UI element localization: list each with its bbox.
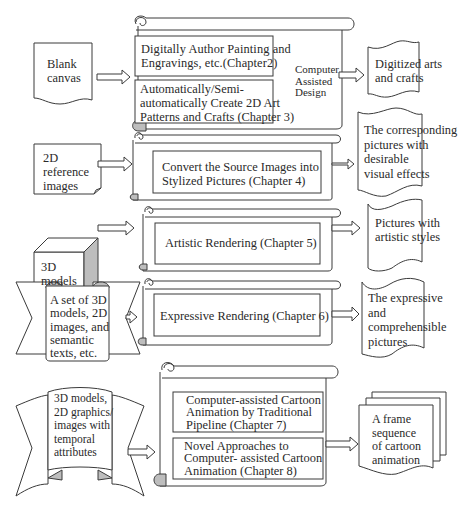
arrow-icon	[332, 221, 360, 235]
input-label: A set of 3D models, 2D images, and seman…	[50, 294, 109, 360]
arrow-icon	[97, 70, 130, 84]
input-label: Blank canvas	[47, 57, 81, 85]
arrow-icon	[98, 221, 134, 235]
process-label: Convert the Source Images into Stylized …	[162, 160, 319, 188]
arrow-icon	[326, 437, 358, 451]
output-label: Pictures with artistic styles	[375, 216, 440, 244]
process-label: Computer-assisted Cartoon Animation by T…	[186, 394, 321, 431]
process-label: Expressive Rendering (Chapter 6)	[160, 309, 329, 323]
output-label: The corresponding pictures with desirabl…	[364, 123, 457, 181]
arrow-icon	[332, 307, 359, 321]
input-label: 3D models, 2D graphics/ images with temp…	[54, 392, 113, 460]
arrow-icon	[332, 159, 354, 169]
process-label: Novel Approaches to Computer- assisted C…	[184, 440, 322, 477]
scroll-side-label: Computer Assisted Design	[295, 64, 339, 99]
arrow-icon	[339, 68, 364, 82]
output-label: The expressive and comprehensible pictur…	[368, 291, 446, 349]
arrow-icon	[128, 445, 155, 459]
output-label: A frame sequence of cartoon animation	[372, 413, 421, 467]
process-label: Artistic Rendering (Chapter 5)	[165, 236, 317, 250]
process-label: Automatically/Semi- automatically Create…	[140, 82, 294, 124]
input-label: 2D reference images	[43, 151, 89, 193]
input-label: 3D models	[41, 260, 77, 288]
output-label: Digitized arts and crafts	[375, 57, 442, 85]
arrow-icon	[98, 157, 132, 171]
process-label: Digitally Author Painting and Engravings…	[141, 42, 291, 70]
